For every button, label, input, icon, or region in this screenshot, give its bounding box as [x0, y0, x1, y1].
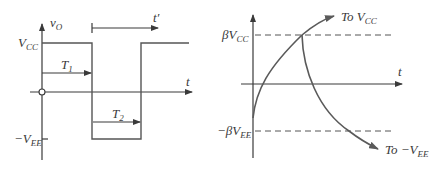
vee-label: −VEE [14, 131, 42, 148]
vcc-label: VCC [18, 35, 39, 52]
beta-vee-label: −βVEE [217, 123, 252, 140]
t1-label: T1 [61, 57, 73, 74]
right-time-axis-label: t [398, 64, 402, 79]
t2-label: T2 [112, 106, 124, 123]
time-axis-label: t [186, 74, 190, 89]
diagram-canvas: vO t VCC −VEE T1 T2 t′ t βVCC −βVEE To V… [0, 0, 441, 170]
origin-marker [39, 89, 45, 95]
beta-vcc-label: βVCC [221, 27, 249, 44]
exponential-panel: t βVCC −βVEE To VCC To −VEE [217, 9, 429, 159]
square-wave-panel: vO t VCC −VEE T1 T2 t′ [14, 10, 192, 160]
to-vcc-label: To VCC [341, 9, 378, 26]
vo-axis-label: vO [50, 15, 63, 32]
falling-curve-to-vee [302, 35, 378, 149]
to-vee-label: To −VEE [385, 142, 429, 159]
t-prime-label: t′ [153, 10, 160, 25]
